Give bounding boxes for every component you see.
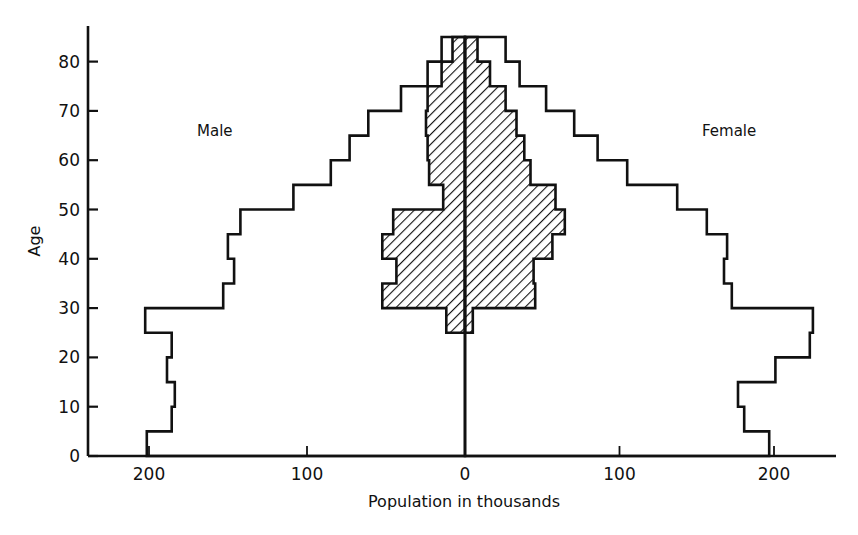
x-axis-ticks: 2001000100200 xyxy=(133,446,790,484)
hatched-bars xyxy=(382,37,565,333)
y-tick-label: 10 xyxy=(58,397,80,417)
male-label: Male xyxy=(197,122,233,140)
y-axis-ticks: 01020304050607080 xyxy=(58,52,98,466)
y-tick-label: 60 xyxy=(58,150,80,170)
x-tick-label: 100 xyxy=(291,464,323,484)
y-tick-label: 80 xyxy=(58,52,80,72)
y-tick-label: 50 xyxy=(58,200,80,220)
y-axis-title: Age xyxy=(25,226,44,257)
x-tick-label: 100 xyxy=(603,464,635,484)
y-tick-label: 70 xyxy=(58,101,80,121)
hatched-bar-left xyxy=(382,37,465,333)
population-pyramid-chart: 01020304050607080 2001000100200 Male Fem… xyxy=(0,0,858,535)
y-tick-label: 0 xyxy=(69,446,80,466)
x-axis-title: Population in thousands xyxy=(368,492,560,511)
x-tick-label: 0 xyxy=(460,464,471,484)
x-tick-label: 200 xyxy=(758,464,790,484)
y-tick-label: 20 xyxy=(58,347,80,367)
y-tick-label: 30 xyxy=(58,298,80,318)
female-label: Female xyxy=(702,122,756,140)
x-tick-label: 200 xyxy=(133,464,165,484)
y-tick-label: 40 xyxy=(58,249,80,269)
hatched-bar-right xyxy=(465,37,565,333)
